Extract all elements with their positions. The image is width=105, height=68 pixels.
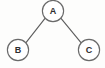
tree-diagram: Binary tree with root A and children B a… [0,0,105,68]
node-a-label: A [50,6,57,16]
edge-a-to-c [61,18,81,43]
node-c-label: C [86,45,93,55]
node-c[interactable]: C [78,39,99,60]
node-a[interactable]: A [42,0,63,21]
edge-a-to-b [26,18,45,43]
node-b[interactable]: B [7,39,28,60]
tree-diagram-svg: Binary tree with root A and children B a… [0,0,105,68]
node-b-label: B [15,45,22,55]
